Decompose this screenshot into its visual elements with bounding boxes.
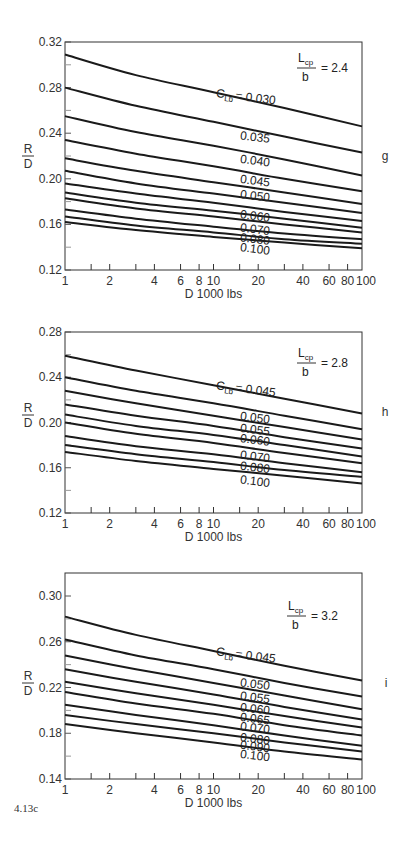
chart-panel-g: 0.120.160.200.240.280.321246810204060801… (22, 35, 388, 301)
y-tick-label: 0.26 (39, 635, 63, 649)
x-tick-label: 2 (106, 783, 113, 797)
y-tick-label: 0.14 (39, 772, 63, 786)
x-tick-label: 6 (177, 783, 184, 797)
y-tick-label: 0.28 (39, 81, 63, 95)
curve-label: CLb= 0.045 (215, 378, 277, 401)
param-numerator: Lcp (288, 599, 304, 615)
param-value: = 2.4 (321, 61, 348, 75)
x-tick-label: 40 (296, 517, 310, 531)
param-denominator: b (302, 70, 309, 84)
curve-clb-0_055 (65, 391, 362, 440)
x-tick-label: 8 (196, 783, 203, 797)
param-value: = 3.2 (311, 609, 338, 623)
y-tick-label: 0.24 (39, 126, 63, 140)
curve-label: 0.060 (239, 431, 271, 449)
param-numerator: Lcp (298, 346, 314, 362)
x-tick-label: 60 (322, 783, 336, 797)
panel-letter: i (385, 676, 388, 690)
curve-label: 0.035 (239, 128, 271, 146)
y-tick-label: 0.30 (39, 589, 63, 603)
param-denominator: b (292, 618, 299, 632)
chart-panel-i: 0.140.180.220.260.30124681020406080100D … (22, 573, 387, 810)
y-axis-title-num: R (24, 142, 33, 156)
x-tick-label: 8 (196, 517, 203, 531)
y-tick-label: 0.24 (39, 370, 63, 384)
y-axis-title-den: D (24, 416, 33, 430)
x-tick-label: 100 (356, 274, 376, 288)
y-axis-title-den: D (24, 684, 33, 698)
y-tick-label: 0.20 (39, 172, 63, 186)
chart-panel-h: 0.120.160.200.240.28124681020406080100D … (22, 325, 388, 544)
curve-label: 0.040 (239, 152, 271, 170)
x-tick-label: 100 (356, 517, 376, 531)
param-denominator: b (302, 365, 309, 379)
x-tick-label: 40 (296, 274, 310, 288)
x-tick-label: 10 (207, 783, 221, 797)
x-tick-label: 4 (151, 517, 158, 531)
x-tick-label: 1 (62, 517, 69, 531)
x-tick-label: 20 (252, 783, 266, 797)
curve-label: CLb= 0.045 (215, 644, 277, 667)
x-tick-label: 60 (322, 274, 336, 288)
param-numerator: Lcp (298, 51, 314, 67)
y-tick-label: 0.20 (39, 416, 63, 430)
curve-clb-0_035 (65, 88, 362, 153)
x-axis-title: D 1000 lbs (185, 530, 242, 544)
y-axis-title-num: R (24, 669, 33, 683)
y-tick-label: 0.16 (39, 461, 63, 475)
panel-letter: g (382, 149, 389, 163)
y-tick-label: 0.22 (39, 681, 63, 695)
x-tick-label: 6 (177, 274, 184, 288)
x-axis-title: D 1000 lbs (185, 287, 242, 301)
x-tick-label: 8 (196, 274, 203, 288)
x-tick-label: 100 (356, 783, 376, 797)
param-value: = 2.8 (321, 356, 348, 370)
y-tick-label: 0.12 (39, 263, 63, 277)
curve-label: 0.100 (239, 240, 271, 258)
x-tick-label: 2 (106, 517, 113, 531)
x-tick-label: 4 (151, 783, 158, 797)
curve-label: 0.100 (239, 747, 271, 765)
figure-id: 4.13c (14, 802, 38, 814)
y-tick-label: 0.16 (39, 217, 63, 231)
x-tick-label: 80 (341, 517, 355, 531)
y-tick-label: 0.28 (39, 325, 63, 339)
figure-4-13c: 0.120.160.200.240.280.321246810204060801… (0, 0, 407, 841)
y-tick-label: 0.12 (39, 506, 63, 520)
curve-clb-0_050 (65, 158, 362, 204)
curve-clb-0_055 (65, 171, 362, 213)
y-axis-title-den: D (24, 157, 33, 171)
x-tick-label: 1 (62, 274, 69, 288)
x-tick-label: 80 (341, 274, 355, 288)
curve-clb-0_055 (65, 656, 362, 710)
curve-clb-0_045 (65, 356, 362, 414)
curve-label: 0.050 (239, 187, 271, 205)
x-tick-label: 80 (341, 783, 355, 797)
curve-clb-0_090 (65, 216, 362, 243)
x-tick-label: 20 (252, 517, 266, 531)
curve-clb-0_080 (65, 210, 362, 240)
x-tick-label: 20 (252, 274, 266, 288)
x-tick-label: 40 (296, 783, 310, 797)
y-tick-label: 0.18 (39, 726, 63, 740)
x-tick-label: 10 (207, 274, 221, 288)
x-axis-title: D 1000 lbs (185, 796, 242, 810)
x-tick-label: 60 (322, 517, 336, 531)
curve-label: CLb= 0.030 (215, 86, 277, 109)
curve-clb-0_080 (65, 705, 362, 746)
x-tick-label: 6 (177, 517, 184, 531)
x-tick-label: 10 (207, 517, 221, 531)
plot-frame (65, 573, 362, 779)
x-tick-label: 2 (106, 274, 113, 288)
curve-clb-0_045 (65, 617, 362, 681)
x-tick-label: 1 (62, 783, 69, 797)
y-tick-label: 0.32 (39, 35, 63, 49)
x-tick-label: 4 (151, 274, 158, 288)
curve-clb-0_030 (65, 55, 362, 127)
y-axis-title-num: R (24, 401, 33, 415)
curve-label: 0.100 (239, 472, 271, 490)
panel-letter: h (382, 405, 389, 419)
